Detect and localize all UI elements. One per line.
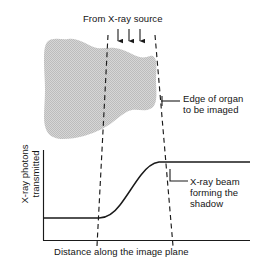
xray-beam-leader <box>170 169 188 181</box>
y-axis-label: X-ray photons transmitted <box>19 131 41 217</box>
xray-shadow-diagram: From X-ray source Edge of organ to be im… <box>0 0 259 265</box>
beam-edge-right-dashed-line <box>155 35 173 246</box>
annotation-edge-of-organ: Edge of organ to be imaged <box>183 93 243 115</box>
xray-source-arrows <box>118 29 140 41</box>
x-axis-label: Distance along the image plane <box>54 246 189 257</box>
organ-shape <box>44 39 156 139</box>
annotation-xray-beam: X-ray beam forming the shadow <box>190 176 240 209</box>
title-from-xray-source: From X-ray source <box>83 13 163 24</box>
edge-of-organ-leader <box>161 96 180 106</box>
